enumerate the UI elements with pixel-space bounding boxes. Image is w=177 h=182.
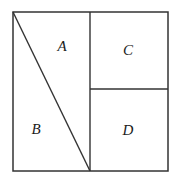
figure-canvas: A B C D bbox=[0, 0, 177, 182]
region-label-C: C bbox=[123, 42, 134, 58]
region-label-D: D bbox=[122, 122, 134, 138]
geometry-figure: A B C D bbox=[0, 0, 177, 182]
region-label-B: B bbox=[31, 121, 40, 137]
region-label-A: A bbox=[56, 38, 67, 54]
